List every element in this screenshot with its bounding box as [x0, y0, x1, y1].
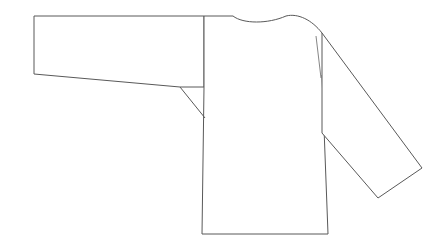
left-underarm-seam	[180, 87, 205, 118]
garment-line-drawing	[0, 0, 446, 245]
drawing-canvas	[0, 0, 446, 245]
body-panel-fill	[202, 16, 328, 234]
left-sleeve	[34, 16, 204, 87]
right-sleeve	[322, 33, 422, 198]
